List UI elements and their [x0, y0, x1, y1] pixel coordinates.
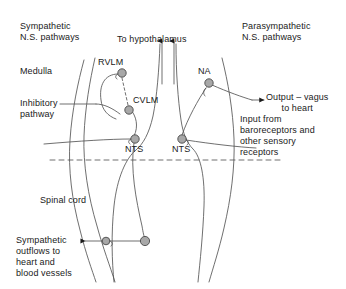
baroreceptor-afferent-left	[44, 139, 131, 144]
label-input-baroreceptors: Input from baroreceptors and other senso…	[240, 114, 315, 158]
label-sympathetic-pathways: Sympathetic N.S. pathways	[20, 21, 79, 43]
inhibitory-pathway-branch	[96, 104, 120, 114]
rvlm-hook	[116, 74, 118, 79]
outflow-node-hook	[110, 241, 112, 246]
node-na	[205, 79, 213, 87]
rvlm-cvlm-inhibitory-arc	[101, 74, 118, 119]
node-nts-right	[178, 135, 186, 143]
medulla-outline-right-inner	[209, 58, 234, 282]
label-nucleus-cvlm: CVLM	[133, 95, 158, 106]
na-efferent-vagus	[212, 85, 252, 100]
label-nucleus-na: NA	[198, 66, 211, 77]
label-inhibitory-pathway: Inhibitory pathway	[20, 98, 58, 120]
medulla-outline-central-right	[176, 44, 204, 282]
label-nucleus-rvlm: RVLM	[98, 57, 123, 68]
medulla-outline-left-outer	[69, 60, 96, 282]
label-nucleus-nts-left: NTS	[125, 144, 143, 155]
medulla-outline-central-left	[112, 44, 160, 282]
node-nts-left	[131, 135, 139, 143]
label-parasympathetic-pathways: Parasympathetic N.S. pathways	[242, 21, 311, 43]
node-rvlm	[118, 69, 126, 77]
nts-descending-sympathetic	[133, 143, 145, 239]
node-cvlm	[125, 106, 133, 114]
label-spinal-cord: Spinal cord	[40, 195, 86, 206]
nts-to-cvlm-pathway	[131, 110, 137, 136]
label-medulla: Medulla	[20, 66, 52, 77]
inhibitory-dashed-link	[122, 78, 128, 105]
nts-to-na-pathway	[182, 88, 206, 135]
medulla-outline-left-inner	[84, 58, 115, 282]
label-to-hypothalamus: To hypothalamus	[117, 34, 187, 45]
diagram-canvas: Sympathetic N.S. pathways Parasympatheti…	[0, 0, 346, 289]
node-sympathetic-outflow	[102, 237, 110, 245]
node-sympathetic-ganglion	[140, 236, 149, 245]
label-sympathetic-outflows: Sympathetic outflows to heart and blood …	[16, 235, 72, 279]
label-nucleus-nts-right: NTS	[172, 144, 190, 155]
label-output-vagus: Output – vagus to heart	[266, 92, 328, 114]
